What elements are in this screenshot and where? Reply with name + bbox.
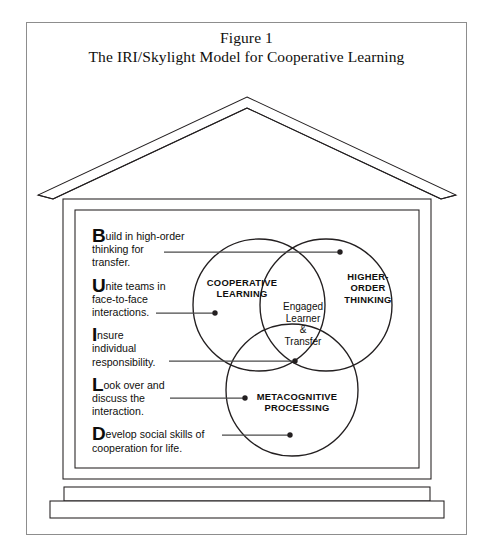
venn-label-higher-order-thinking: HIGHER- ORDER THINKING (330, 271, 406, 305)
build-text-l-line2: discuss the (92, 392, 220, 405)
build-text-u-line1: nite teams in (106, 280, 166, 292)
build-text-l-line1: ook over and (103, 379, 164, 391)
build-text-d-line1: evelop social skills of (106, 428, 205, 440)
figure-root: Figure 1 The IRI/Skylight Model for Coop… (0, 0, 493, 557)
venn-label-cooperative-line2: LEARNING (196, 288, 288, 299)
build-item-i: Insure individual responsibility. (92, 328, 220, 369)
venn-label-higher-line1: HIGHER- (330, 271, 406, 282)
venn-label-metacognitive-processing: METACOGNITIVE PROCESSING (242, 391, 352, 414)
build-text-i-line1: nsure (97, 329, 124, 341)
build-text-i-line2: individual (92, 342, 220, 355)
venn-label-meta-line1: METACOGNITIVE (242, 391, 352, 402)
venn-center-line2: Learner (266, 313, 340, 325)
build-text-d-line2: cooperation for life. (92, 442, 234, 455)
venn-label-higher-line3: THINKING (330, 294, 406, 305)
venn-label-cooperative-learning: COOPERATIVE LEARNING (196, 277, 288, 300)
house-roof-icon (38, 97, 456, 199)
venn-center-label-engaged-learner-transfer: Engaged Learner & Transfer (266, 301, 340, 347)
build-text-l-line3: interaction. (92, 405, 220, 418)
build-text-i-line3: responsibility. (92, 356, 220, 369)
venn-center-line1: Engaged (266, 301, 340, 313)
build-item-d: Develop social skills of cooperation for… (92, 427, 234, 454)
build-acronym-list: Build in high-order thinking for transfe… (92, 229, 220, 464)
leader-dot-develop (287, 432, 292, 437)
leader-dot-build (337, 249, 342, 254)
leader-dot-insure (292, 358, 297, 363)
build-item-l: Look over and discuss the interaction. (92, 378, 220, 419)
build-text-b-line2: thinking for (92, 243, 220, 256)
venn-label-meta-line2: PROCESSING (242, 402, 352, 413)
house-foundation (50, 487, 444, 518)
build-text-b-line1: uild in high-order (106, 230, 185, 242)
build-text-b-line3: transfer. (92, 256, 220, 269)
venn-center-line3: & (266, 324, 340, 336)
venn-center-line4: Transfer (266, 336, 340, 348)
build-text-u-line3: interactions. (92, 306, 220, 319)
venn-label-higher-line2: ORDER (330, 282, 406, 293)
build-item-b: Build in high-order thinking for transfe… (92, 229, 220, 270)
venn-label-cooperative-line1: COOPERATIVE (196, 277, 288, 288)
